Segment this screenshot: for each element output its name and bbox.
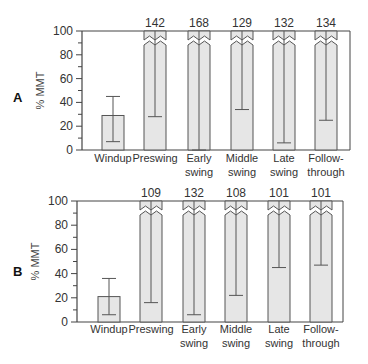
y-tick-label: 80 bbox=[60, 48, 74, 62]
x-category-label: Preswing bbox=[132, 152, 177, 164]
y-tick-label: 100 bbox=[48, 194, 68, 208]
x-category-label: Middle bbox=[226, 152, 258, 164]
x-category-label: Early bbox=[181, 323, 207, 335]
y-tick-label: 0 bbox=[61, 315, 68, 329]
bar-value-label: 168 bbox=[189, 16, 209, 30]
y-tick-label: 60 bbox=[60, 72, 74, 86]
x-category-label: through bbox=[302, 337, 339, 349]
x-category-label: swing bbox=[270, 166, 298, 178]
x-category-label: swing bbox=[185, 166, 213, 178]
bar-early-swing: 168Earlyswing bbox=[185, 16, 213, 178]
bar-value-label: 108 bbox=[226, 186, 246, 200]
y-axis-title: % MMT bbox=[34, 71, 46, 109]
bar-value-label: 101 bbox=[269, 186, 289, 200]
bar-value-label: 132 bbox=[184, 186, 204, 200]
x-category-label: swing bbox=[265, 337, 293, 349]
x-category-label: Early bbox=[186, 152, 212, 164]
bar-follow-through: 134Follow-through bbox=[307, 16, 344, 178]
bar-middle-swing: 108Middleswing bbox=[220, 186, 252, 349]
x-category-label: swing bbox=[228, 166, 256, 178]
chart-panel-a: A% MMT020406080100Windup142Preswing168Ea… bbox=[13, 16, 350, 178]
y-axis-title: % MMT bbox=[29, 242, 41, 280]
bar-middle-swing: 129Middleswing bbox=[226, 16, 258, 178]
y-tick-label: 40 bbox=[60, 95, 74, 109]
x-category-label: Middle bbox=[220, 323, 252, 335]
y-tick-label: 100 bbox=[53, 24, 73, 38]
x-category-label: Late bbox=[273, 152, 294, 164]
x-category-label: Late bbox=[268, 323, 289, 335]
bar-value-label: 129 bbox=[232, 16, 252, 30]
y-tick-label: 80 bbox=[55, 218, 69, 232]
bar-late-swing: 132Lateswing bbox=[270, 16, 298, 178]
bar-value-label: 142 bbox=[145, 16, 165, 30]
y-tick-label: 40 bbox=[55, 267, 69, 281]
bar-preswing: 142Preswing bbox=[132, 16, 177, 164]
bar-preswing: 109Preswing bbox=[128, 186, 173, 335]
x-category-label: swing bbox=[222, 337, 250, 349]
x-category-label: Windup bbox=[94, 152, 131, 164]
x-category-label: Follow- bbox=[303, 323, 339, 335]
chart-figure: A% MMT020406080100Windup142Preswing168Ea… bbox=[0, 0, 368, 364]
x-category-label: Windup bbox=[90, 323, 127, 335]
bar-value-label: 101 bbox=[311, 186, 331, 200]
bar-value-label: 134 bbox=[316, 16, 336, 30]
x-category-label: Follow- bbox=[308, 152, 344, 164]
panel-label: B bbox=[13, 264, 22, 279]
bar-value-label: 109 bbox=[141, 186, 161, 200]
y-tick-label: 0 bbox=[66, 143, 73, 157]
chart-panel-b: B% MMT020406080100Windup109Preswing132Ea… bbox=[13, 186, 343, 349]
y-tick-label: 20 bbox=[55, 291, 69, 305]
x-category-label: through bbox=[307, 166, 344, 178]
x-category-label: Preswing bbox=[128, 323, 173, 335]
y-tick-label: 20 bbox=[60, 119, 74, 133]
bar-windup: Windup bbox=[94, 96, 131, 164]
panel-label: A bbox=[13, 90, 23, 105]
bar-early-swing: 132Earlyswing bbox=[180, 186, 208, 349]
bar-windup: Windup bbox=[90, 278, 127, 335]
bar-late-swing: 101Lateswing bbox=[265, 186, 293, 349]
x-category-label: swing bbox=[180, 337, 208, 349]
bar-follow-through: 101Follow-through bbox=[302, 186, 339, 349]
bar-value-label: 132 bbox=[274, 16, 294, 30]
y-tick-label: 60 bbox=[55, 242, 69, 256]
